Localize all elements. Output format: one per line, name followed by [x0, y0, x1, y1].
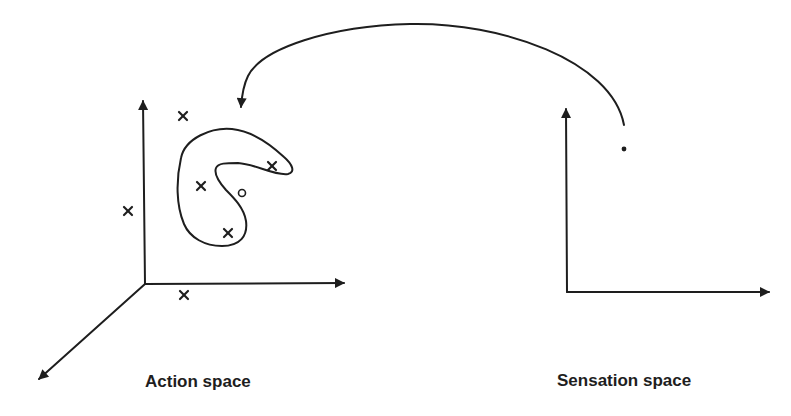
sensation-space-label: Sensation space — [557, 371, 691, 391]
cross-marker-in-region — [197, 182, 205, 190]
action-region-contour — [178, 129, 293, 246]
circle-marker — [239, 190, 246, 197]
sensation-space-axes — [566, 109, 769, 292]
cross-marker — [179, 112, 187, 120]
cross-marker — [124, 207, 132, 215]
action-z-axis — [39, 284, 145, 379]
cross-marker-in-region — [224, 229, 232, 237]
action-sensation-diagram — [0, 0, 791, 416]
action-space-axes — [39, 101, 344, 379]
action-space-label: Action space — [145, 372, 251, 392]
action-x-axis — [145, 283, 344, 284]
sensation-y-axis — [566, 109, 567, 292]
cross-marker-in-region — [268, 162, 276, 170]
action-y-axis — [143, 101, 145, 284]
action-points — [124, 112, 276, 299]
cross-marker — [180, 291, 188, 299]
sensation-point — [622, 147, 627, 152]
